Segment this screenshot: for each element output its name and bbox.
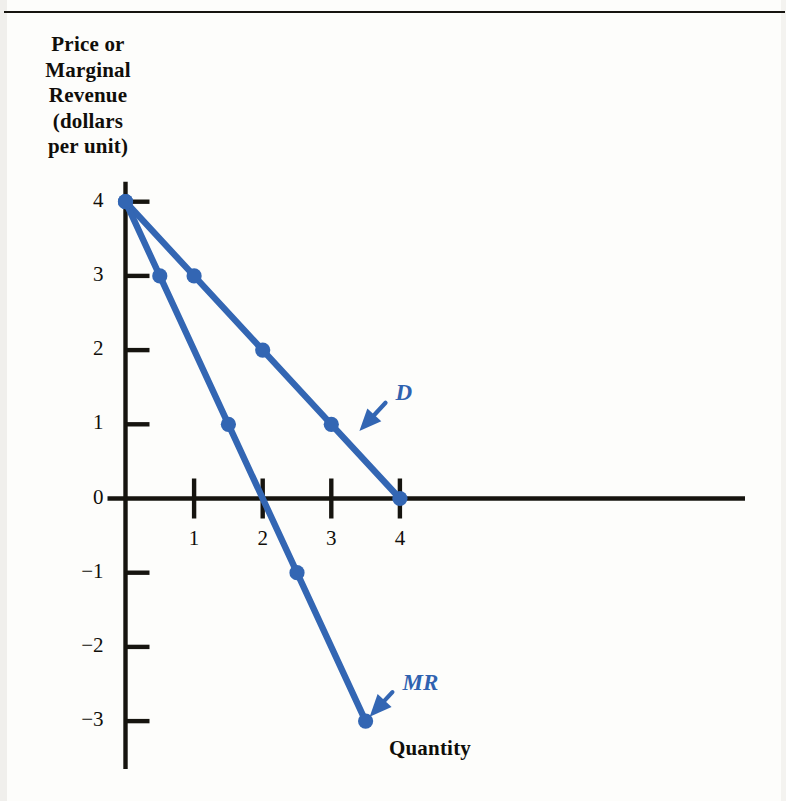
data-point-d <box>187 268 202 283</box>
series-label-d: D <box>396 380 413 406</box>
chart-svg <box>0 0 786 801</box>
y-axis-tick-label: 4 <box>58 188 104 213</box>
y-axis-tick-label: −3 <box>58 707 104 732</box>
x-axis-tick-label: 4 <box>385 526 415 551</box>
y-axis-tick-label: 2 <box>58 336 104 361</box>
data-point-mr <box>289 565 304 580</box>
y-axis-tick-label: 1 <box>58 410 104 435</box>
y-axis-tick-label: −2 <box>58 633 104 658</box>
data-point-mr <box>118 194 133 209</box>
y-axis-tick-label: 0 <box>58 485 104 510</box>
series-label-mr: MR <box>402 670 438 696</box>
plot-area <box>0 0 786 801</box>
data-point-mr <box>152 268 167 283</box>
x-axis-tick-label: 3 <box>316 526 346 551</box>
y-axis-tick-label: 3 <box>58 262 104 287</box>
y-axis-tick-label: −1 <box>58 559 104 584</box>
figure-page: Price or Marginal Revenue (dollars per u… <box>0 0 786 801</box>
data-point-d <box>392 491 407 506</box>
data-point-d <box>324 417 339 432</box>
series-group <box>118 194 408 729</box>
x-axis-tick-label: 2 <box>248 526 278 551</box>
x-axis-tick-label: 1 <box>179 526 209 551</box>
annotation-group <box>359 403 392 717</box>
data-point-mr <box>221 417 236 432</box>
data-point-d <box>255 343 270 358</box>
